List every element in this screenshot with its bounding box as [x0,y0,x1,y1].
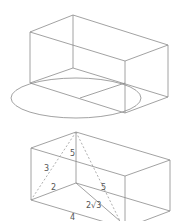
base-right-edge [125,211,170,221]
figure-box-with-diagonals: 3 5 5 2 2√3 4 [31,132,170,221]
label-base-depth: 2 [51,183,56,192]
label-right-diagonal: 5 [101,183,106,192]
top-face [31,132,170,176]
figure-box-with-ellipse [11,15,168,118]
label-vertical-edge: 5 [70,149,75,158]
radius-line [80,83,125,98]
label-left-diagonal: 3 [44,164,49,173]
label-base-diagonal: 2√3 [86,201,101,210]
top-face [30,15,168,61]
label-front-bottom: 4 [70,213,75,221]
bottom-face [30,68,168,113]
base-front-edge [31,200,125,221]
diagram-canvas: 3 5 5 2 2√3 4 [0,0,185,221]
